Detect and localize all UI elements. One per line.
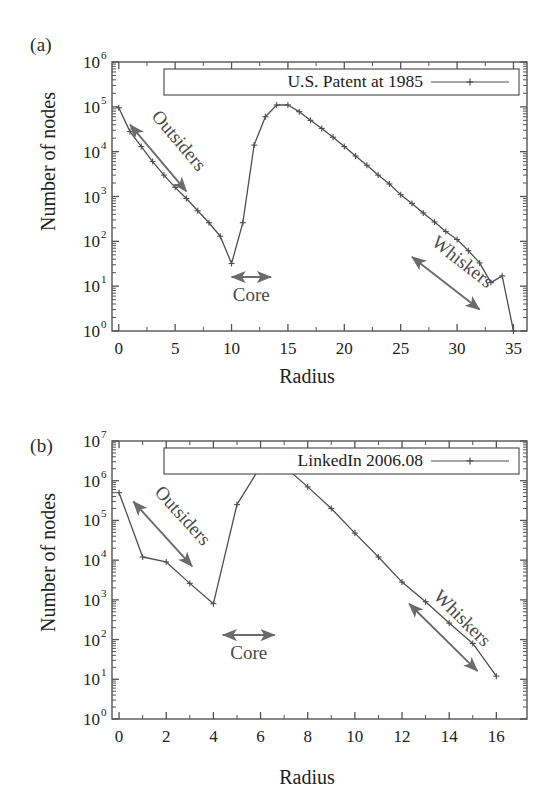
x-tick-label: 30	[449, 339, 466, 358]
annotation-label: Core	[233, 284, 270, 305]
panel-b: (b) Number of nodes Radius 1001011021031…	[0, 401, 554, 802]
legend-label: LinkedIn 2006.08	[298, 450, 424, 470]
y-tick-exponent: 5	[101, 94, 107, 106]
y-tick-exponent: 4	[101, 547, 107, 559]
data-point-marker	[234, 502, 240, 508]
y-tick-exponent: 6	[101, 468, 107, 480]
legend-label: U.S. Patent at 1985	[287, 71, 423, 91]
plot-frame	[112, 441, 527, 719]
data-point-marker	[116, 490, 122, 496]
y-tick-label: 10	[83, 591, 100, 610]
y-tick-label: 10	[83, 322, 100, 341]
y-tick-label: 10	[83, 143, 100, 162]
data-point-marker	[285, 102, 291, 108]
panel-a-plot: 10010110210310410510605101520253035U.S. …	[0, 0, 554, 401]
x-tick-label: 2	[162, 727, 171, 746]
figure-container: (a) Number of nodes Radius 1001011021031…	[0, 0, 554, 802]
x-tick-label: 12	[394, 727, 411, 746]
y-tick-label: 10	[83, 631, 100, 650]
x-tick-label: 5	[171, 339, 180, 358]
y-tick-exponent: 0	[101, 706, 107, 718]
plot-frame	[112, 62, 527, 331]
y-tick-label: 10	[83, 188, 100, 207]
annotation-label: Core	[230, 642, 267, 663]
y-tick-exponent: 5	[101, 507, 107, 519]
x-tick-label: 35	[505, 339, 522, 358]
data-point-marker	[229, 261, 235, 267]
x-tick-label: 6	[256, 727, 265, 746]
data-point-marker	[499, 273, 505, 279]
x-tick-label: 0	[115, 339, 124, 358]
panel-b-plot: 1001011021031041051061070246810121416Lin…	[0, 401, 554, 802]
x-tick-label: 25	[392, 339, 409, 358]
y-tick-exponent: 3	[101, 184, 107, 196]
x-tick-label: 0	[115, 727, 124, 746]
data-point-marker	[116, 105, 122, 111]
y-tick-label: 10	[83, 472, 100, 491]
data-point-marker	[251, 142, 257, 148]
x-tick-label: 16	[488, 727, 505, 746]
y-tick-exponent: 2	[101, 627, 107, 639]
y-tick-label: 10	[83, 53, 100, 72]
annotation-label: Whiskers	[430, 585, 496, 650]
y-tick-label: 10	[83, 511, 100, 530]
y-tick-exponent: 3	[101, 587, 107, 599]
y-tick-label: 10	[83, 670, 100, 689]
data-point-marker	[240, 220, 246, 226]
x-tick-label: 8	[303, 727, 312, 746]
y-tick-exponent: 0	[101, 318, 107, 330]
annotation-label: Whiskers	[428, 231, 498, 292]
data-point-marker	[140, 554, 146, 560]
x-tick-label: 20	[336, 339, 353, 358]
annotation-label: Outsiders	[151, 481, 216, 549]
y-tick-label: 10	[83, 277, 100, 296]
y-tick-exponent: 4	[101, 139, 107, 151]
data-point-marker	[510, 328, 516, 334]
y-tick-label: 10	[83, 551, 100, 570]
y-tick-exponent: 2	[101, 228, 107, 240]
y-tick-exponent: 1	[101, 273, 107, 285]
x-tick-label: 10	[346, 727, 363, 746]
y-tick-label: 10	[83, 432, 100, 451]
y-tick-exponent: 6	[101, 49, 107, 61]
y-tick-label: 10	[83, 98, 100, 117]
x-tick-label: 14	[441, 727, 459, 746]
y-tick-label: 10	[83, 232, 100, 251]
x-tick-label: 4	[209, 727, 218, 746]
x-tick-label: 15	[279, 339, 296, 358]
annotation-label: Outsiders	[148, 106, 211, 175]
y-tick-exponent: 7	[101, 428, 107, 440]
y-tick-label: 10	[83, 710, 100, 729]
y-tick-exponent: 1	[101, 666, 107, 678]
panel-a: (a) Number of nodes Radius 1001011021031…	[0, 0, 554, 401]
x-tick-label: 10	[223, 339, 240, 358]
